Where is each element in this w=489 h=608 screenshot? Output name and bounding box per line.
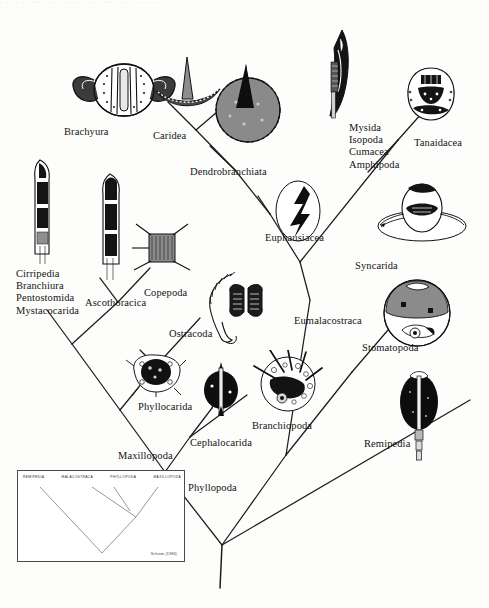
label-cephalocarida: Cephalocarida: [190, 437, 252, 449]
inset-header-remipedia: REMIPEDIA: [23, 475, 44, 479]
specimen-peracarida: [320, 28, 356, 120]
specimen-dendrobranchiata: [206, 62, 290, 146]
label-brachyura: Brachyura: [64, 126, 109, 138]
label-ostracoda: Ostracoda: [169, 328, 212, 340]
specimen-tanaidacea: [404, 66, 458, 122]
specimen-stomatopoda: [382, 278, 452, 348]
label-maxillopoda: Maxillopoda: [118, 450, 173, 462]
label-tanaidacea: Tanaidacea: [414, 137, 462, 149]
inset-header-maxillopoda: MAXILLOPODA: [154, 475, 182, 479]
label-branchiopoda: Branchiopoda: [252, 420, 312, 432]
inset-credit: Schram (1986): [151, 552, 177, 556]
inset-simplified-cladogram: REMIPEDIA MALACOSTRACA PHYLLOPODA MAXILL…: [17, 470, 185, 562]
specimen-cirripedia: [26, 158, 56, 266]
label-remipedia: Remipedia: [364, 438, 410, 450]
label-phyllopoda: Phyllopoda: [188, 482, 237, 494]
label-phyllocarida: Phyllocarida: [138, 401, 192, 413]
specimen-cephalocarida: [200, 362, 242, 418]
label-dendrobranchiata: Dendrobranchiata: [190, 166, 267, 178]
specimen-branchiopoda: [252, 350, 324, 412]
label-caridea: Caridea: [153, 130, 186, 142]
specimen-maxillule: [222, 282, 270, 322]
label-stomatopoda: Stomatopoda: [362, 342, 419, 354]
inset-header-phyllopoda: PHYLLOPODA: [110, 475, 136, 479]
crustacean-cladogram-figure: · ·· · ·· ··· · ·· · ···· · ·· · ··· · ·…: [0, 0, 489, 608]
inset-header-malacostraca: MALACOSTRACA: [62, 475, 94, 479]
label-syncarida: Syncarida: [355, 260, 398, 272]
label-euphausiacea: Euphausiacea: [265, 232, 324, 244]
label-copepoda: Copepoda: [144, 287, 187, 299]
specimen-cirripedia-2: [96, 172, 124, 282]
specimen-copepoda: [130, 222, 192, 274]
inset-branches: [18, 471, 184, 561]
specimen-syncarida: [376, 178, 468, 244]
specimen-phyllocarida: [124, 350, 188, 398]
label-ascothoracica: Ascothoracica: [85, 297, 146, 309]
label-eumalacostraca: Eumalacostraca: [294, 315, 362, 327]
label-peracarida-group: MysidaIsopodaCumaceaAmphipoda: [349, 122, 399, 171]
label-cirripedia-group: CirripediaBranchiuraPentostomidaMystacoc…: [16, 268, 79, 317]
